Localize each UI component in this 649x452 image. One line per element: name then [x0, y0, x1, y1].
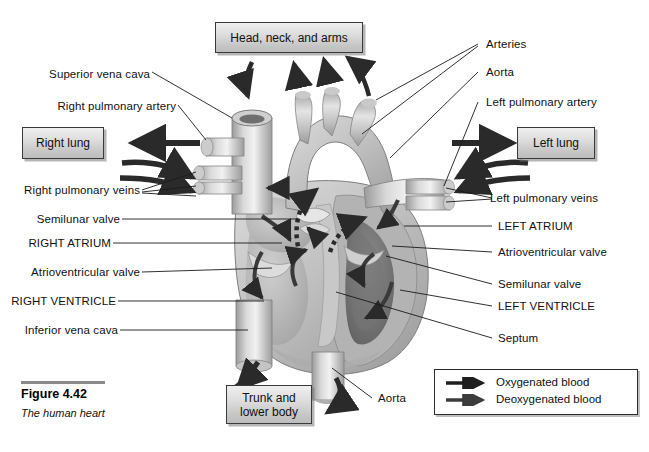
figure-human-heart: Head, neck, and arms Right lung Left lun…	[0, 0, 649, 452]
label-septum: Septum	[498, 332, 538, 345]
legend-arrow-deoxygenated-icon	[444, 394, 492, 406]
caption-rule	[21, 381, 105, 384]
box-head-label: Head, neck, and arms	[230, 31, 347, 45]
figure-caption: The human heart	[21, 407, 105, 419]
box-right-lung-label: Right lung	[36, 136, 90, 150]
box-trunk-label-line2: lower body	[240, 405, 298, 419]
label-left-pulmonary-artery: Left pulmonary artery	[486, 96, 597, 109]
box-left-lung[interactable]: Left lung	[517, 127, 595, 159]
box-left-lung-label: Left lung	[533, 136, 579, 150]
label-right-ventricle: RIGHT VENTRICLE	[0, 295, 116, 308]
legend-arrow-oxygenated-icon	[444, 377, 492, 389]
label-right-pulmonary-veins: Right pulmonary veins	[0, 184, 140, 197]
legend-row-deoxygenated: Deoxygenated blood	[444, 393, 602, 406]
label-superior-vena-cava: Superior vena cava	[0, 68, 150, 81]
figure-number: Figure 4.42	[21, 387, 87, 401]
legend-row-oxygenated: Oxygenated blood	[444, 376, 589, 389]
legend-label-deoxygenated: Deoxygenated blood	[496, 393, 602, 406]
box-trunk-label-line1: Trunk and	[242, 391, 296, 405]
box-right-lung[interactable]: Right lung	[22, 127, 104, 159]
box-trunk-lower-body[interactable]: Trunk and lower body	[226, 385, 312, 424]
legend-label-oxygenated: Oxygenated blood	[496, 376, 589, 389]
label-inferior-vena-cava: Inferior vena cava	[0, 324, 118, 337]
label-right-atrium: RIGHT ATRIUM	[0, 237, 111, 250]
label-semilunar-valve-left: Semilunar valve	[498, 278, 581, 291]
box-head-neck-arms[interactable]: Head, neck, and arms	[215, 22, 363, 53]
label-atrioventricular-valve-left: Atrioventricular valve	[498, 246, 607, 259]
label-atrioventricular-valve-right: Atrioventricular valve	[0, 266, 140, 279]
label-aorta-bottom: Aorta	[378, 392, 406, 405]
legend-box: Oxygenated blood Deoxygenated blood	[434, 369, 638, 415]
label-aorta-top: Aorta	[486, 66, 514, 79]
label-right-pulmonary-artery: Right pulmonary artery	[0, 100, 176, 113]
label-arteries: Arteries	[486, 38, 526, 51]
label-left-pulmonary-veins: Left pulmonary veins	[490, 192, 598, 205]
label-left-ventricle: LEFT VENTRICLE	[498, 300, 595, 313]
label-left-atrium: LEFT ATRIUM	[498, 220, 573, 233]
label-semilunar-valve-right: Semilunar valve	[0, 213, 120, 226]
